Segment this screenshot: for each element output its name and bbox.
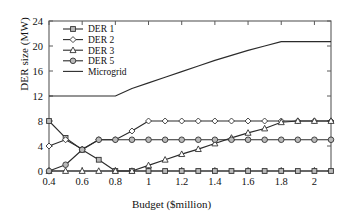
x-tick-label: 0.8 — [109, 176, 122, 187]
data-point — [212, 118, 218, 124]
legend-marker — [70, 37, 76, 43]
legend-item-microgrid: Microgrid — [63, 67, 127, 77]
data-point — [146, 118, 152, 124]
y-tick-label: 12 — [33, 91, 44, 102]
data-point — [47, 119, 52, 124]
x-tick-label: 1.4 — [208, 176, 222, 187]
data-point — [163, 169, 168, 174]
legend-item-der-1: DER 1 — [63, 24, 114, 34]
data-point — [96, 157, 101, 162]
x-tick-label: 1 — [146, 176, 151, 187]
y-tick-label: 4 — [38, 141, 44, 152]
legend-label: Microgrid — [88, 67, 127, 77]
x-tick-label: 2 — [312, 176, 317, 187]
data-point — [312, 169, 317, 174]
chart-plot: 048121620240.40.60.811.21.41.61.82 DER 1… — [0, 0, 343, 221]
y-tick-label: 16 — [33, 66, 44, 77]
legend-item-der-3: DER 3 — [63, 46, 114, 56]
data-point — [329, 169, 334, 174]
data-point — [262, 137, 268, 143]
data-point — [179, 169, 184, 174]
chart-legend: DER 1DER 2DER 3DER 5Microgrid — [63, 24, 127, 76]
legend-item-der-2: DER 2 — [63, 35, 114, 45]
data-point — [146, 137, 152, 143]
legend-label: DER 1 — [88, 24, 114, 34]
data-point — [212, 169, 217, 174]
legend-label: DER 2 — [88, 35, 114, 45]
data-point — [312, 137, 318, 143]
x-tick-label: 1.2 — [175, 176, 188, 187]
data-point — [113, 137, 119, 143]
series-line — [49, 121, 331, 171]
data-point — [162, 118, 168, 124]
data-point — [195, 137, 201, 143]
data-point — [229, 169, 234, 174]
data-point — [246, 169, 251, 174]
data-point — [279, 169, 284, 174]
data-point — [46, 168, 52, 174]
data-point — [295, 137, 301, 143]
legend-marker — [71, 27, 76, 32]
data-point — [129, 137, 135, 143]
data-point — [295, 169, 300, 174]
data-point — [212, 137, 218, 143]
series-der-2 — [46, 118, 334, 152]
data-point — [229, 137, 235, 143]
series-der-1 — [47, 119, 334, 174]
data-point — [262, 169, 267, 174]
y-tick-label: 0 — [38, 166, 43, 177]
chart-container: DER size (MW) Budget ($million) 04812162… — [0, 0, 343, 221]
data-point — [162, 137, 168, 143]
data-point — [278, 137, 284, 143]
data-point — [79, 147, 85, 153]
legend-label: DER 5 — [88, 56, 114, 66]
data-point — [179, 137, 185, 143]
y-tick-label: 8 — [38, 116, 43, 127]
x-tick-label: 1.6 — [241, 176, 254, 187]
data-point — [146, 169, 151, 174]
series-line — [49, 121, 331, 171]
data-point — [46, 143, 52, 149]
series-der-5 — [46, 137, 334, 174]
x-tick-label: 0.4 — [42, 176, 56, 187]
data-point — [196, 169, 201, 174]
y-tick-label: 20 — [33, 41, 44, 52]
y-tick-label: 24 — [33, 16, 44, 27]
data-point — [195, 118, 201, 124]
x-tick-label: 1.8 — [275, 176, 288, 187]
data-point — [245, 118, 251, 124]
data-point — [228, 118, 234, 124]
legend-item-der-5: DER 5 — [63, 56, 114, 66]
legend-label: DER 3 — [88, 46, 114, 56]
x-tick-label: 0.6 — [76, 176, 89, 187]
legend-marker — [70, 58, 76, 64]
data-point — [328, 137, 334, 143]
data-point — [96, 137, 102, 143]
data-point — [262, 118, 268, 124]
data-point — [179, 118, 185, 124]
data-point — [129, 128, 135, 134]
series-line — [49, 121, 331, 149]
data-point — [245, 137, 251, 143]
data-point — [63, 162, 69, 168]
